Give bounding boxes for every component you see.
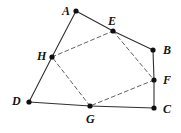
edge-F-G <box>90 80 154 106</box>
inner-quadrilateral-edges <box>52 31 154 106</box>
outer-quadrilateral-edges <box>29 11 154 108</box>
edge-G-D <box>29 102 90 106</box>
edge-G-H <box>52 57 90 106</box>
edge-C-G <box>90 106 154 108</box>
vertex-dot-d <box>26 99 31 104</box>
vertex-dot-f <box>151 77 156 82</box>
edge-E-F <box>113 31 154 80</box>
vertex-label-e: E <box>108 15 116 27</box>
vertex-label-f: F <box>163 74 171 86</box>
vertex-dot-b <box>150 47 155 52</box>
edge-B-F <box>153 50 154 80</box>
edge-D-H <box>29 57 52 102</box>
vertex-label-c: C <box>163 103 171 115</box>
vertex-dot-h <box>49 54 54 59</box>
vertex-label-g: G <box>86 113 95 125</box>
vertex-label-h: H <box>37 50 46 62</box>
vertex-dot-g <box>87 103 92 108</box>
vertex-dot-c <box>151 105 156 110</box>
vertex-label-d: D <box>12 95 21 107</box>
geometry-figure: ABCDEFGH <box>0 0 181 133</box>
edge-H-E <box>52 31 113 57</box>
vertex-dot-a <box>73 8 78 13</box>
vertex-dot-e <box>110 28 115 33</box>
edge-E-B <box>113 31 153 50</box>
vertex-label-a: A <box>62 5 70 17</box>
vertex-label-b: B <box>163 44 171 56</box>
